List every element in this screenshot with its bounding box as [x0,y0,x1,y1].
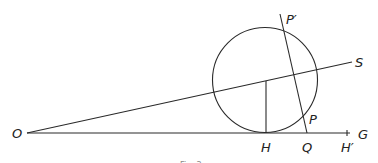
circle [213,28,318,133]
label-H-prime: H′ [341,140,354,155]
label-G: G [358,127,368,142]
label-O: O [12,126,22,141]
label-P: P [309,112,317,127]
line-PprimeQ [280,14,307,133]
label-S: S [355,55,363,70]
line-OS [27,62,352,133]
figure-caption: Fig. 3 [180,161,202,163]
geometry-diagram: O S P′ P H Q H′ G Fig. 3 [0,0,378,163]
label-H: H [261,140,271,155]
label-Q: Q [302,140,312,155]
label-P-prime: P′ [286,12,297,27]
